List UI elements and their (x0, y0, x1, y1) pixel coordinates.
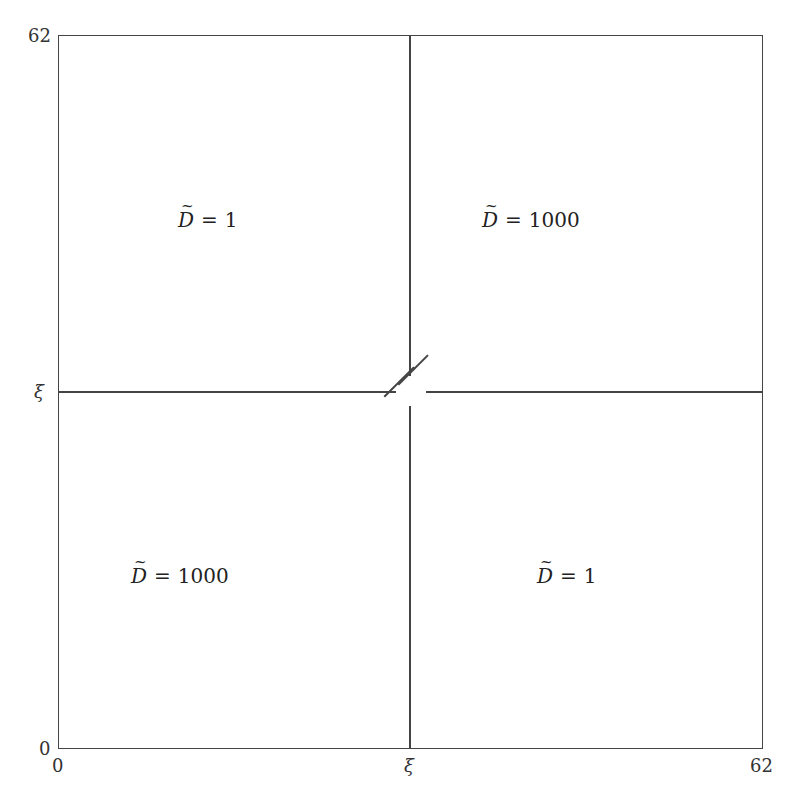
d-tilde-symbol: D (537, 566, 553, 586)
x-tick-middle: ξ (404, 757, 414, 775)
equals-sign: = (154, 564, 171, 588)
equals-sign: = (201, 208, 218, 232)
region-value: 1000 (178, 564, 229, 588)
y-tick-top: 62 (28, 27, 51, 45)
region-label-bottom-right: D=1 (537, 566, 597, 586)
region-value: 1 (225, 208, 238, 232)
d-tilde-symbol: D (482, 210, 498, 230)
x-tick-right: 62 (750, 757, 773, 775)
region-label-top-left: D=1 (178, 210, 238, 230)
region-label-bottom-left: D=1000 (131, 566, 229, 586)
d-tilde-symbol: D (178, 210, 194, 230)
region-value: 1000 (529, 208, 580, 232)
region-value: 1 (584, 564, 597, 588)
equals-sign: = (560, 564, 577, 588)
y-tick-bottom: 0 (39, 740, 50, 758)
y-tick-middle: ξ (34, 383, 44, 401)
equals-sign: = (505, 208, 522, 232)
d-tilde-symbol: D (131, 566, 147, 586)
x-tick-left: 0 (52, 757, 63, 775)
region-label-top-right: D=1000 (482, 210, 580, 230)
